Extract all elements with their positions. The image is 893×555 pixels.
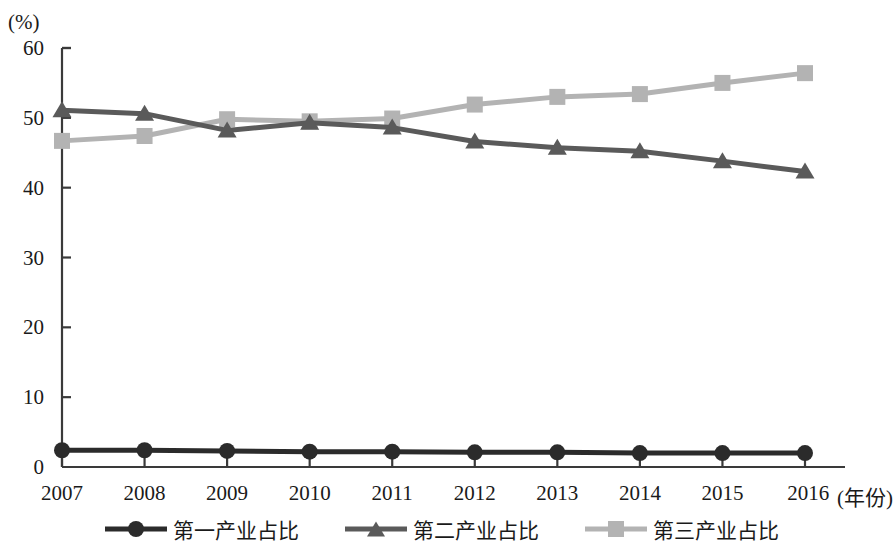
legend-triangle-icon bbox=[345, 520, 407, 538]
x-axis-tick-label: 2009 bbox=[206, 481, 248, 506]
series-1 bbox=[54, 442, 813, 461]
data-point-square bbox=[714, 75, 730, 91]
data-point-circle bbox=[714, 445, 730, 461]
legend-circle-icon bbox=[105, 520, 167, 538]
x-axis-title: (年份) bbox=[837, 481, 893, 511]
chart-legend: 第一产业占比第二产业占比第三产业占比 bbox=[0, 514, 883, 544]
data-point-square bbox=[137, 128, 153, 144]
data-point-circle bbox=[219, 443, 235, 459]
series-line bbox=[62, 450, 805, 453]
data-point-circle bbox=[302, 444, 318, 460]
y-axis-tick-label: 20 bbox=[4, 315, 44, 340]
x-axis-tick-label: 2010 bbox=[289, 481, 331, 506]
series-line bbox=[62, 110, 805, 171]
legend-item[interactable]: 第一产业占比 bbox=[105, 514, 299, 544]
legend-marker-swatch bbox=[608, 521, 624, 537]
data-point-square bbox=[549, 89, 565, 105]
y-axis-tick-label: 60 bbox=[4, 36, 44, 61]
y-axis-tick-label: 0 bbox=[4, 455, 44, 480]
y-axis-tick-label: 10 bbox=[4, 385, 44, 410]
data-point-circle bbox=[797, 445, 813, 461]
data-point-circle bbox=[137, 442, 153, 458]
legend-label: 第二产业占比 bbox=[413, 514, 539, 544]
x-axis-tick-label: 2016 bbox=[787, 481, 829, 506]
legend-item[interactable]: 第二产业占比 bbox=[345, 514, 539, 544]
legend-marker-swatch bbox=[128, 521, 144, 537]
x-axis-tick-label: 2011 bbox=[372, 481, 413, 506]
series-line bbox=[62, 73, 805, 141]
legend-marker-swatch bbox=[367, 522, 385, 537]
x-axis-tick-label: 2007 bbox=[41, 481, 83, 506]
data-point-circle bbox=[54, 442, 70, 458]
y-axis-tick-label: 50 bbox=[4, 105, 44, 130]
x-axis-tick-label: 2015 bbox=[701, 481, 743, 506]
data-point-circle bbox=[632, 445, 648, 461]
data-point-square bbox=[54, 133, 70, 149]
y-axis-tick-label: 40 bbox=[4, 175, 44, 200]
x-axis-tick-label: 2014 bbox=[619, 481, 661, 506]
x-axis-tick-label: 2008 bbox=[124, 481, 166, 506]
x-axis-tick-label: 2012 bbox=[454, 481, 496, 506]
x-axis-tick-label: 2013 bbox=[536, 481, 578, 506]
data-point-circle bbox=[384, 444, 400, 460]
legend-label: 第三产业占比 bbox=[653, 514, 779, 544]
data-point-circle bbox=[549, 444, 565, 460]
y-axis-unit-label: (%) bbox=[8, 10, 39, 35]
legend-label: 第一产业占比 bbox=[173, 514, 299, 544]
data-point-square bbox=[797, 65, 813, 81]
data-point-circle bbox=[467, 444, 483, 460]
data-point-square bbox=[467, 97, 483, 113]
data-point-square bbox=[632, 86, 648, 102]
y-axis-tick-label: 30 bbox=[4, 245, 44, 270]
legend-square-icon bbox=[585, 520, 647, 538]
legend-item[interactable]: 第三产业占比 bbox=[585, 514, 779, 544]
